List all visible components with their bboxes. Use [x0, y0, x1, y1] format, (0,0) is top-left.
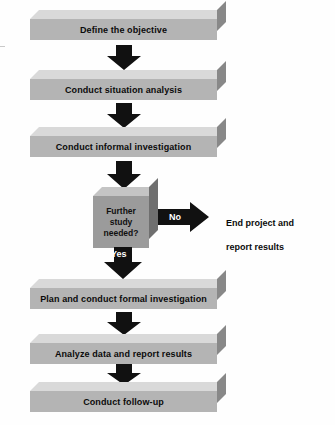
decision-side-face [149, 178, 158, 239]
decision-label-line-2: study [110, 217, 133, 228]
process-box-informal-investigation[interactable]: Conduct informal investigation [30, 127, 217, 157]
process-box-conduct-follow-up[interactable]: Conduct follow-up [30, 382, 217, 412]
scan-edge-mark-left [0, 46, 5, 47]
box-side-face [217, 118, 226, 148]
edge-label-yes: Yes [111, 249, 127, 259]
box-side-face [217, 270, 226, 300]
flowchart-canvas: Define the objective Conduct situation a… [0, 0, 335, 425]
process-box-label: Conduct follow-up [30, 391, 217, 412]
box-side-face [217, 325, 226, 355]
box-side-face [217, 373, 226, 403]
box-top-face [30, 334, 226, 343]
decision-label-line-1: Further [106, 206, 136, 217]
box-top-face [30, 382, 226, 391]
terminal-text-end-project: End project and report results [226, 205, 326, 265]
terminal-text-line-1: End project and [226, 217, 326, 229]
arrow-right-no: No [158, 202, 209, 232]
process-box-label: Conduct situation analysis [30, 79, 217, 100]
decision-label-line-3: needed? [104, 228, 139, 239]
arrow-down-n2-n3 [107, 103, 141, 128]
process-box-label: Plan and conduct formal investigation [30, 288, 217, 309]
process-box-label: Conduct informal investigation [30, 136, 217, 157]
decision-box-further-study[interactable]: Further study needed? [93, 187, 159, 248]
box-side-face [217, 1, 226, 31]
box-top-face [30, 10, 226, 19]
process-box-situation-analysis[interactable]: Conduct situation analysis [30, 70, 217, 100]
box-side-face [217, 61, 226, 91]
terminal-text-line-2: report results [226, 241, 326, 253]
process-box-label: Analyze data and report results [30, 343, 217, 364]
box-top-face [30, 70, 226, 79]
process-box-define-objective[interactable]: Define the objective [30, 10, 217, 40]
decision-box-label: Further study needed? [93, 196, 149, 248]
process-box-label: Define the objective [30, 19, 217, 40]
box-top-face [30, 279, 226, 288]
arrow-down-n1-n2 [107, 45, 141, 70]
process-box-analyze-data[interactable]: Analyze data and report results [30, 334, 217, 364]
box-top-face [30, 127, 226, 136]
edge-label-no: No [161, 202, 189, 232]
arrow-down-n3-n4 [107, 161, 141, 186]
process-box-formal-investigation[interactable]: Plan and conduct formal investigation [30, 279, 217, 309]
